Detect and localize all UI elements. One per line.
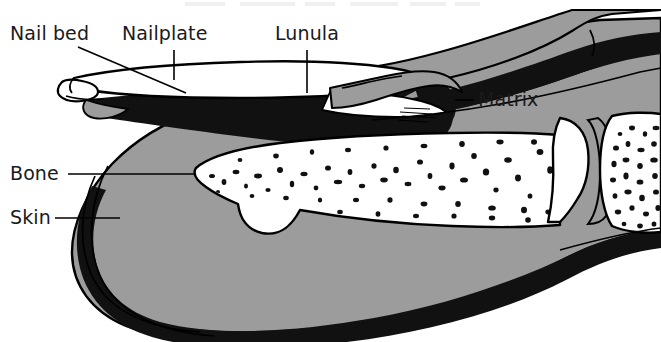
label-bone: Bone bbox=[10, 162, 59, 184]
distal-phalanx bbox=[194, 133, 560, 234]
scan-artifact-row bbox=[185, 2, 480, 6]
middle-phalanx bbox=[600, 113, 661, 233]
label-lunula: Lunula bbox=[275, 22, 339, 44]
label-matrix: Matrix bbox=[478, 88, 538, 110]
anatomy-illustration: Nail bed Nailplate Lunula Matrix Bone Sk… bbox=[0, 0, 661, 342]
nail-anatomy-figure: Nail bed Nailplate Lunula Matrix Bone Sk… bbox=[0, 0, 661, 342]
label-skin: Skin bbox=[10, 206, 51, 228]
label-nail-bed: Nail bed bbox=[10, 22, 89, 44]
label-nailplate: Nailplate bbox=[122, 22, 207, 44]
figure-body: Nail bed Nailplate Lunula Matrix Bone Sk… bbox=[10, 2, 661, 342]
